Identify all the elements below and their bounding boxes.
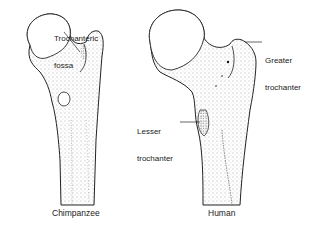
label-line: Trochanteric <box>54 34 98 43</box>
label-lesser-trochanter: Lesser trochanter <box>137 109 173 172</box>
caption-chimpanzee: Chimpanzee <box>52 208 100 218</box>
label-line: fossa <box>54 61 98 70</box>
label-line: trochanter <box>137 154 173 163</box>
human-femur <box>149 10 262 205</box>
label-line: trochanter <box>265 83 301 92</box>
label-greater-trochanter: Greater trochanter <box>265 38 301 101</box>
label-line: Greater <box>265 56 301 65</box>
label-line: Lesser <box>137 127 173 136</box>
label-trochanteric-fossa: Trochanteric fossa <box>54 16 98 79</box>
caption-human: Human <box>208 208 235 218</box>
